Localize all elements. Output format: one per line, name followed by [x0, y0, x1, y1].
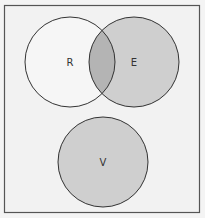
label-v: V [100, 157, 107, 168]
label-e: E [131, 57, 137, 68]
venn-diagram: R E V [0, 0, 205, 218]
label-r: R [67, 57, 74, 68]
